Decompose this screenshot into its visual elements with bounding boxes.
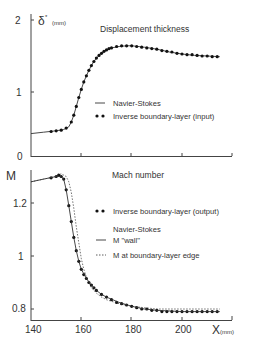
bottom-plot: M 1.2 1 0.8 140 160 180 200 X (mm) Mach …	[6, 169, 234, 337]
data-point	[92, 60, 95, 63]
data-point	[145, 46, 148, 49]
data-point	[170, 310, 173, 313]
xtick-160: 160	[75, 324, 92, 335]
data-point	[125, 44, 128, 47]
xlabel: X	[212, 323, 220, 337]
data-point	[135, 45, 138, 48]
data-point	[211, 55, 214, 58]
chart-figure: 2 1 0 δ * (mm) Displacement thickness Na…	[0, 0, 258, 348]
data-point	[82, 80, 85, 83]
xtick-140: 140	[25, 324, 42, 335]
data-point	[130, 44, 133, 47]
xlabel-unit: (mm)	[220, 329, 234, 335]
top-legend-dots: Inverse boundary-layer (input)	[113, 112, 215, 121]
data-point	[60, 129, 63, 132]
data-point	[100, 52, 103, 55]
data-point	[150, 47, 153, 50]
data-point	[206, 54, 209, 57]
data-point	[75, 105, 78, 108]
top-ylabel: δ	[38, 14, 45, 28]
bottom-ytick-1.2: 1.2	[13, 198, 27, 209]
data-point	[65, 127, 68, 130]
bottom-legend-dots: Inverse boundary-layer (output)	[113, 207, 219, 216]
data-point	[55, 129, 58, 132]
data-point	[196, 54, 199, 57]
data-point	[120, 44, 123, 47]
xtick-180: 180	[125, 324, 142, 335]
data-point	[80, 88, 83, 91]
data-point	[155, 48, 158, 51]
top-ytick-2: 2	[15, 15, 21, 26]
data-point	[97, 54, 100, 57]
data-point	[87, 69, 90, 72]
bottom-ytick-1: 1	[18, 251, 24, 262]
data-point	[170, 50, 173, 53]
data-point	[180, 52, 183, 55]
bottom-legend-group: Navier-Stokes	[113, 225, 161, 234]
top-legend-solid: Navier-Stokes	[113, 99, 161, 108]
top-title: Displacement thickness	[100, 24, 189, 34]
xtick-200: 200	[175, 324, 192, 335]
bottom-legend-dashed: M at boundary-layer edge	[113, 251, 200, 260]
top-plot: 2 1 0 δ * (mm) Displacement thickness Na…	[15, 14, 232, 162]
data-point	[191, 53, 194, 56]
top-ytick-1: 1	[16, 87, 22, 98]
data-point	[90, 64, 93, 67]
data-point	[165, 50, 168, 53]
top-ylabel-unit: (mm)	[52, 20, 66, 26]
data-point	[77, 96, 80, 99]
data-point	[201, 54, 204, 57]
data-point	[140, 46, 143, 49]
data-point	[70, 120, 73, 123]
data-point	[95, 57, 98, 60]
bottom-ytick-0.8: 0.8	[12, 303, 26, 314]
data-point	[115, 45, 118, 48]
top-ytick-0: 0	[17, 151, 23, 162]
data-point	[175, 52, 178, 55]
bottom-legend-solid: M "wall"	[113, 236, 140, 245]
data-point	[216, 55, 219, 58]
data-point	[110, 46, 113, 49]
data-point	[50, 130, 53, 133]
data-point	[160, 49, 163, 52]
data-point	[72, 114, 75, 117]
data-point	[85, 74, 88, 77]
bottom-title: Mach number	[112, 170, 164, 180]
bottom-ylabel: M	[6, 169, 16, 183]
top-ylabel-sup: *	[45, 14, 48, 20]
data-point	[185, 53, 188, 56]
